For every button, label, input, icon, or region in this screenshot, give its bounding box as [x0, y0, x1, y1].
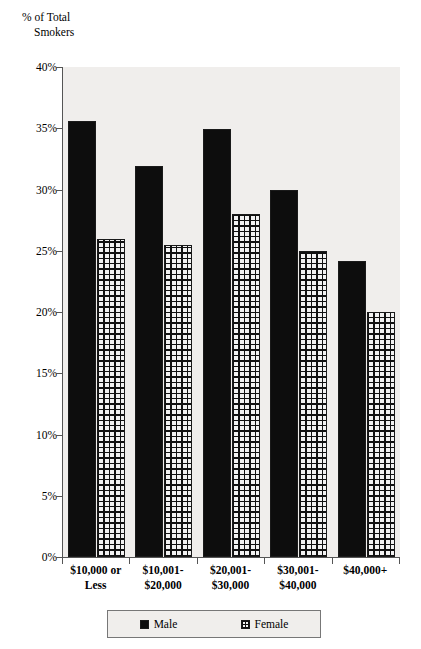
x-axis-category-label: $40,000+ — [326, 563, 404, 578]
legend-label-female: Female — [255, 618, 289, 630]
x-axis-category-label: $10,001-$20,000 — [124, 563, 202, 593]
bar-male — [68, 121, 96, 557]
bar-female — [97, 239, 125, 558]
bar-male — [135, 166, 163, 557]
legend-item-male: Male — [140, 618, 178, 630]
x-axis-labels: $10,000 orLess$10,001-$20,000$20,001-$30… — [62, 563, 399, 607]
y-axis-tick-label: 0% — [11, 551, 57, 563]
y-axis-tick-label: 10% — [11, 429, 57, 441]
solid-black-swatch-icon — [140, 620, 149, 629]
bar-female — [367, 312, 395, 557]
x-axis-category-label: $30,001-$40,000 — [259, 563, 337, 593]
y-axis-tick-label: 35% — [11, 122, 57, 134]
bar-female — [232, 214, 260, 557]
y-axis-title-line-1: % of Total — [22, 10, 142, 25]
bar-female — [299, 251, 327, 557]
y-axis-tick-label: 15% — [11, 367, 57, 379]
legend-label-male: Male — [154, 618, 178, 630]
y-axis-tick-label: 20% — [11, 306, 57, 318]
bar-group — [332, 67, 399, 557]
y-axis-tick-label: 5% — [11, 490, 57, 502]
bar-group — [62, 67, 129, 557]
bar-group — [264, 67, 331, 557]
bar-male — [338, 261, 366, 557]
x-axis-category-label: $10,000 orLess — [57, 563, 135, 593]
x-axis-category-label: $20,001-$30,000 — [192, 563, 270, 593]
x-axis-label-line-2: $20,000 — [124, 578, 202, 593]
bar-female — [164, 245, 192, 557]
x-axis-label-line-1: $10,000 or — [57, 563, 135, 578]
x-axis-label-line-2: $30,000 — [192, 578, 270, 593]
y-axis-tick-label: 30% — [11, 184, 57, 196]
y-axis-title-line-2: Smokers — [22, 25, 142, 40]
legend-item-female: Female — [241, 618, 289, 630]
x-axis-label-line-2: Less — [57, 578, 135, 593]
x-axis-label-line-2: $40,000 — [259, 578, 337, 593]
bar-group — [197, 67, 264, 557]
bar-male — [203, 129, 231, 557]
bar-series-container — [62, 67, 399, 557]
x-axis-label-line-1: $30,001- — [259, 563, 337, 578]
x-axis-label-line-1: $20,001- — [192, 563, 270, 578]
crosshatch-swatch-icon — [241, 620, 250, 629]
y-axis-tick-label: 25% — [11, 245, 57, 257]
bar-group — [129, 67, 196, 557]
x-axis-label-line-1: $40,000+ — [326, 563, 404, 578]
chart-legend: Male Female — [107, 610, 321, 638]
bar-male — [270, 190, 298, 558]
x-axis-label-line-1: $10,001- — [124, 563, 202, 578]
y-axis-tick-label: 40% — [11, 61, 57, 73]
y-axis-title: % of Total Smokers — [22, 10, 142, 40]
